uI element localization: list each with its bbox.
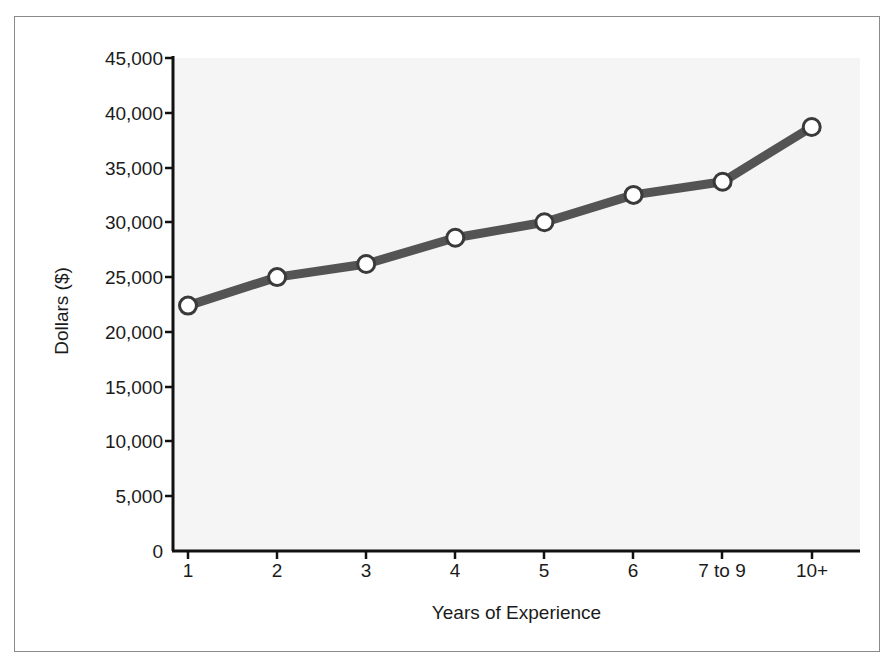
data-point-marker bbox=[269, 269, 286, 286]
data-point-marker bbox=[625, 186, 642, 203]
data-point-marker bbox=[447, 229, 464, 246]
data-point-marker bbox=[358, 256, 375, 273]
data-point-marker bbox=[714, 173, 731, 190]
plot-svg bbox=[0, 0, 896, 669]
data-point-marker bbox=[803, 119, 820, 136]
data-markers bbox=[180, 119, 821, 315]
data-point-marker bbox=[536, 214, 553, 231]
data-point-marker bbox=[180, 297, 197, 314]
chart-figure: 45,000 40,000 35,000 30,000 25,000 20,00… bbox=[0, 0, 896, 669]
